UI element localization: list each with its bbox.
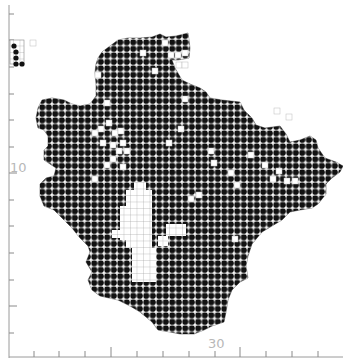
x-axis-ticks [34, 347, 318, 357]
inset-outlier-box [10, 40, 25, 67]
map-figure [0, 0, 343, 360]
x-axis [9, 347, 343, 357]
x-axis-tick-label: 30 [208, 337, 225, 350]
y-axis-tick-label: 10 [10, 161, 27, 174]
distribution-region [30, 33, 343, 334]
